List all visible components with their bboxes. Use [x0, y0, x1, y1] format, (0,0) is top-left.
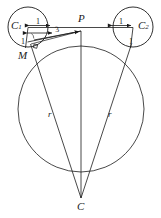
- right-angle-icon: [33, 44, 37, 48]
- label-radius-left: r: [48, 110, 52, 119]
- line-c-to-left-tangency: [31, 44, 82, 198]
- dimension-label-right-unit: 1: [119, 18, 123, 26]
- dimension-label-left-unit: 1: [36, 18, 40, 26]
- line-c-to-right-tangency: [81, 44, 132, 198]
- label-c2-subscript: 2: [145, 23, 149, 31]
- label-c1-subscript: 1: [18, 23, 22, 31]
- label-radius-right: r: [108, 110, 112, 119]
- label-c-big: C: [77, 201, 84, 212]
- geometry-canvas: [0, 0, 161, 218]
- geometry-figure: C1 C2 P M C r r 1 1 1 1 3: [0, 0, 161, 218]
- line-c1-to-m: [26, 28, 29, 49]
- label-c2: C2: [138, 20, 149, 31]
- label-m: M: [18, 50, 27, 61]
- angle-arc-c1: [32, 34, 34, 39]
- label-c1: C1: [11, 20, 22, 31]
- label-p: P: [78, 13, 85, 24]
- dimension-label-left-radius: 1: [21, 38, 25, 46]
- dimension-label-right-radius: 1: [129, 38, 133, 46]
